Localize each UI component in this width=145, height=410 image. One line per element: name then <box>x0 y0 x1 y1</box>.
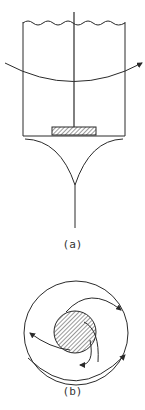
bottom-flow-right <box>75 139 123 185</box>
outer-rotation-arrow <box>28 355 125 381</box>
diagram-canvas <box>0 0 145 410</box>
flow-line-1 <box>66 298 121 312</box>
panel-a-vessel <box>5 12 142 228</box>
panel-a-label: (a) <box>0 238 145 251</box>
impeller-bar <box>52 127 96 135</box>
panel-b-label: (b) <box>0 385 145 398</box>
impeller-disk <box>54 311 96 353</box>
bottom-flow-left <box>25 139 75 185</box>
panel-b-topview <box>24 281 128 385</box>
